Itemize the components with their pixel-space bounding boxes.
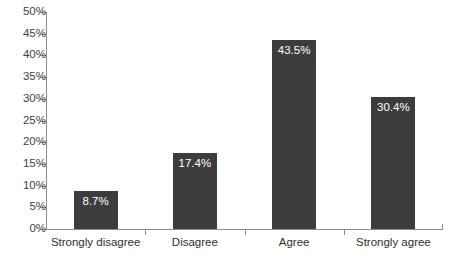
y-axis-tick-label: 45% bbox=[8, 28, 46, 40]
bar-value-label: 30.4% bbox=[371, 101, 415, 114]
bar-value-label: 43.5% bbox=[272, 44, 316, 57]
x-axis-category-label: Disagree bbox=[145, 236, 244, 250]
bar-value-label: 8.7% bbox=[74, 195, 118, 208]
y-axis-line bbox=[46, 12, 47, 230]
y-axis-tick-label: 50% bbox=[8, 6, 46, 18]
y-axis-tick-label: 25% bbox=[8, 115, 46, 127]
y-axis-tick-label: 20% bbox=[8, 136, 46, 148]
x-axis-tick-mark bbox=[145, 230, 146, 235]
bar: 30.4% bbox=[371, 97, 415, 229]
bar: 8.7% bbox=[74, 191, 118, 229]
x-axis-tick-mark bbox=[245, 230, 246, 235]
bar: 17.4% bbox=[173, 153, 217, 229]
y-axis-tick-label: 40% bbox=[8, 49, 46, 61]
x-axis-end-tick bbox=[442, 224, 443, 230]
y-axis-tick-label: 15% bbox=[8, 158, 46, 170]
y-axis-tick-label: 5% bbox=[8, 201, 46, 213]
y-axis-tick-label: 0% bbox=[8, 223, 46, 235]
x-axis-category-label: Strongly agree bbox=[344, 236, 443, 250]
x-axis-category-label: Strongly disagree bbox=[46, 236, 145, 250]
y-axis-tick-label: 35% bbox=[8, 71, 46, 83]
bar-value-label: 17.4% bbox=[173, 157, 217, 170]
x-axis-tick-mark bbox=[344, 230, 345, 235]
bar-chart: 0%5%10%15%20%25%30%35%40%45%50% 8.7%17.4… bbox=[0, 0, 455, 264]
y-axis-tick-label: 30% bbox=[8, 93, 46, 105]
x-axis-category-label: Agree bbox=[245, 236, 344, 250]
y-axis-tick-label: 10% bbox=[8, 180, 46, 192]
bar: 43.5% bbox=[272, 40, 316, 229]
